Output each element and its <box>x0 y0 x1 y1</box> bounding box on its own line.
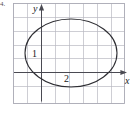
y-axis-label: y <box>32 3 38 14</box>
annotation-semi-major: 2 <box>64 73 69 84</box>
figure-canvas: y x 1 2 <box>0 0 133 113</box>
annotation-semi-minor: 1 <box>32 48 37 59</box>
ellipse-figure: 4. <box>0 0 133 113</box>
x-axis-label: x <box>124 75 130 86</box>
